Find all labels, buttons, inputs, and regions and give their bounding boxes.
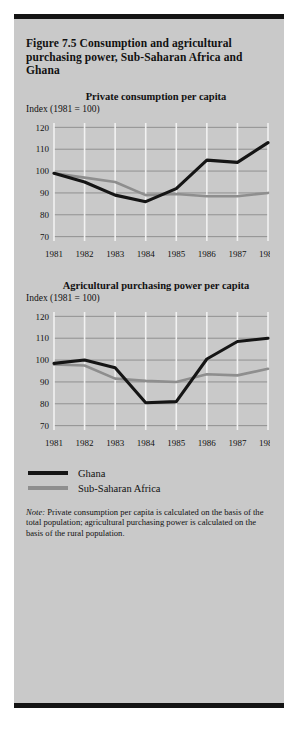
x-axis-tick-label: 1986: [198, 438, 217, 448]
x-axis-tick-label: 1981: [45, 249, 63, 259]
figure-title: Figure 7.5 Consumption and agricultural …: [26, 37, 272, 78]
x-axis-tick-label: 1985: [167, 438, 186, 448]
y-axis-tick-label: 100: [36, 355, 50, 365]
y-axis-label-agricultural-power: Index (1981 = 100): [26, 293, 272, 303]
x-axis-tick-label: 1984: [137, 438, 156, 448]
legend-swatch-ghana: [28, 471, 68, 475]
legend-swatch-sub-saharan-africa: [28, 486, 68, 490]
x-axis-tick-label: 1983: [106, 438, 125, 448]
figure-note-text: Private consumption per capita is calcul…: [26, 507, 263, 538]
chart-title-agricultural-power: Agricultural purchasing power per capita: [40, 280, 272, 291]
y-axis-tick-label: 70: [40, 420, 50, 430]
y-axis-tick-label: 90: [40, 377, 50, 387]
x-axis-tick-label: 1987: [228, 249, 247, 259]
x-axis-tick-label: 1988: [259, 438, 270, 448]
figure-container: Figure 7.5 Consumption and agricultural …: [14, 14, 284, 708]
chart-panel-private-consumption: Private consumption per capita Index (19…: [26, 91, 272, 267]
y-axis-tick-label: 120: [36, 122, 50, 132]
x-axis-tick-label: 1987: [228, 438, 247, 448]
figure-note: Note: Private consumption per capita is …: [26, 507, 272, 539]
y-axis-tick-label: 80: [40, 209, 50, 219]
x-axis-tick-label: 1985: [167, 249, 186, 259]
series-line-sub-saharan-africa: [54, 364, 268, 381]
y-axis-tick-label: 110: [36, 144, 50, 154]
x-axis-tick-label: 1984: [137, 249, 156, 259]
line-chart-agricultural-power: 1201101009080701981198219831984198519861…: [26, 304, 270, 456]
legend: Ghana Sub-Saharan Africa: [28, 466, 272, 496]
y-axis-tick-label: 70: [40, 231, 50, 241]
y-axis-tick-label: 80: [40, 398, 50, 408]
x-axis-tick-label: 1988: [259, 249, 270, 259]
chart-title-private-consumption: Private consumption per capita: [40, 91, 272, 102]
y-axis-tick-label: 100: [36, 166, 50, 176]
x-axis-tick-label: 1986: [198, 249, 217, 259]
x-axis-tick-label: 1981: [45, 438, 63, 448]
line-chart-private-consumption: 1201101009080701981198219831984198519861…: [26, 115, 270, 267]
y-axis-tick-label: 90: [40, 188, 50, 198]
y-axis-tick-label: 120: [36, 311, 50, 321]
x-axis-tick-label: 1982: [76, 438, 94, 448]
legend-item-sub-saharan-africa: Sub-Saharan Africa: [28, 481, 272, 496]
figure-note-prefix: Note:: [26, 507, 45, 517]
x-axis-tick-label: 1982: [76, 249, 94, 259]
legend-item-ghana: Ghana: [28, 466, 272, 481]
legend-label-ghana: Ghana: [78, 468, 105, 479]
legend-label-sub-saharan-africa: Sub-Saharan Africa: [78, 483, 161, 494]
x-axis-tick-label: 1983: [106, 249, 125, 259]
y-axis-label-private-consumption: Index (1981 = 100): [26, 104, 272, 114]
series-line-ghana: [54, 338, 268, 402]
y-axis-tick-label: 110: [36, 333, 50, 343]
chart-panel-agricultural-power: Agricultural purchasing power per capita…: [26, 280, 272, 456]
